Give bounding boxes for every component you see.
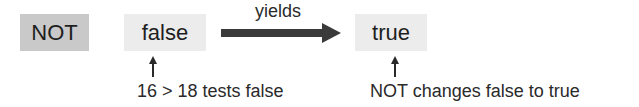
up-arrow-icon [149,56,157,77]
up-arrow-icon [391,56,399,77]
input-annotation: 16 > 18 tests false [137,81,284,102]
output-annotation: NOT changes false to true [370,81,580,102]
right-arrow-icon [221,23,341,43]
